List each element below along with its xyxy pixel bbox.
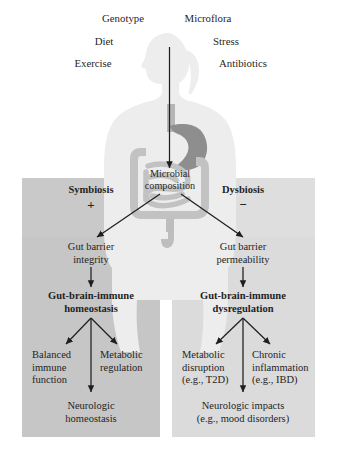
gut-barrier-permeability-label: Gut barrier permeability bbox=[183, 241, 303, 266]
dysregulation-line1: Gut-brain-immune bbox=[176, 290, 310, 303]
influence-exercise: Exercise bbox=[74, 57, 111, 70]
gut-barrier-permeability-line1: Gut barrier bbox=[183, 241, 303, 254]
neurologic-impacts-label: Neurologic impacts (e.g., mood disorders… bbox=[168, 400, 318, 425]
microbial-composition-label: Microbial composition bbox=[124, 168, 216, 192]
neurologic-impacts-line2: (e.g., mood disorders) bbox=[168, 413, 318, 426]
diagram-text: Genotype Microflora Diet Stress Exercise… bbox=[0, 0, 339, 455]
dysbiosis-minus-sign: − bbox=[239, 198, 246, 211]
metabolic-disruption-label: Metabolic disruption (e.g., T2D) bbox=[182, 349, 244, 387]
gut-barrier-integrity-label: Gut barrier integrity bbox=[36, 241, 146, 266]
gut-brain-axis-figure: Genotype Microflora Diet Stress Exercise… bbox=[0, 0, 339, 455]
gut-barrier-integrity-line2: integrity bbox=[36, 254, 146, 267]
influence-antibiotics: Antibiotics bbox=[219, 57, 267, 70]
microbial-composition-line1: Microbial bbox=[124, 168, 216, 180]
gut-barrier-integrity-line1: Gut barrier bbox=[36, 241, 146, 254]
balanced-immune-line1: Balanced bbox=[32, 349, 88, 362]
gut-brain-immune-dysregulation-label: Gut-brain-immune dysregulation bbox=[176, 290, 310, 315]
homeostasis-line2: homeostasis bbox=[25, 303, 157, 316]
chronic-inflammation-line1: Chronic bbox=[252, 349, 322, 362]
microbial-composition-line2: composition bbox=[124, 180, 216, 192]
influence-stress: Stress bbox=[213, 35, 239, 48]
metabolic-regulation-line1: Metabolic bbox=[100, 349, 160, 362]
neurologic-impacts-line1: Neurologic impacts bbox=[168, 400, 318, 413]
influence-microflora: Microflora bbox=[185, 12, 232, 25]
gut-barrier-permeability-line2: permeability bbox=[183, 254, 303, 267]
balanced-immune-line2: immune bbox=[32, 362, 88, 375]
metabolic-disruption-line2: disruption bbox=[182, 362, 244, 375]
influence-genotype: Genotype bbox=[102, 12, 144, 25]
chronic-inflammation-line2: inflammation bbox=[252, 362, 322, 375]
influence-diet: Diet bbox=[95, 35, 114, 48]
neurologic-homeostasis-line1: Neurologic bbox=[31, 400, 151, 413]
balanced-immune-function-label: Balanced immune function bbox=[32, 349, 88, 387]
chronic-inflammation-line3: (e.g., IBD) bbox=[252, 374, 322, 387]
dysregulation-line2: dysregulation bbox=[176, 303, 310, 316]
balanced-immune-line3: function bbox=[32, 374, 88, 387]
homeostasis-line1: Gut-brain-immune bbox=[25, 290, 157, 303]
neurologic-homeostasis-line2: homeostasis bbox=[31, 413, 151, 426]
chronic-inflammation-label: Chronic inflammation (e.g., IBD) bbox=[252, 349, 322, 387]
neurologic-homeostasis-label: Neurologic homeostasis bbox=[31, 400, 151, 425]
metabolic-regulation-label: Metabolic regulation bbox=[100, 349, 160, 374]
symbiosis-label: Symbiosis bbox=[69, 184, 114, 197]
metabolic-regulation-line2: regulation bbox=[100, 362, 160, 375]
gut-brain-immune-homeostasis-label: Gut-brain-immune homeostasis bbox=[25, 290, 157, 315]
metabolic-disruption-line1: Metabolic bbox=[182, 349, 244, 362]
metabolic-disruption-line3: (e.g., T2D) bbox=[182, 374, 244, 387]
dysbiosis-label: Dysbiosis bbox=[222, 184, 264, 197]
symbiosis-plus-sign: + bbox=[87, 198, 94, 211]
